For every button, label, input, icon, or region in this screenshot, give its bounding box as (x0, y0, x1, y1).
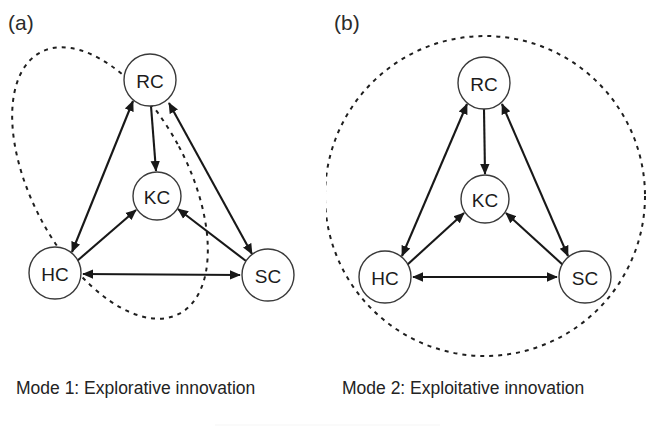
edge-hc-rc-bidirectional (72, 101, 133, 252)
edge-rc-to-kc (151, 106, 156, 171)
panel-a-diagram: RC KC HC SC (0, 0, 326, 370)
edge-sc-to-kc (506, 213, 563, 265)
panel-b-diagram: RC KC HC SC (326, 0, 652, 370)
node-rc[interactable]: RC (458, 57, 510, 109)
panel-a: (a) RC KC (0, 0, 326, 370)
grouping-ellipse-mode1 (0, 16, 248, 351)
edge-hc-sc-bidirectional (83, 274, 240, 275)
node-hc-label: HC (371, 268, 398, 289)
panel-b: (b) RC KC (326, 0, 652, 370)
node-sc-label: SC (255, 266, 281, 287)
node-kc-label: KC (472, 190, 498, 211)
node-kc[interactable]: KC (461, 175, 509, 223)
node-sc-label: SC (572, 268, 598, 289)
figure-canvas: (a) RC KC (0, 0, 652, 433)
node-rc[interactable]: RC (124, 54, 176, 106)
bottom-edge-artifact (215, 424, 440, 426)
node-hc-label: HC (41, 264, 68, 285)
node-sc[interactable]: SC (559, 251, 611, 303)
edge-sc-to-kc (178, 209, 246, 261)
node-sc[interactable]: SC (242, 249, 294, 301)
node-hc[interactable]: HC (359, 251, 411, 303)
edge-rc-to-kc (484, 109, 485, 174)
edge-rc-sc-bidirectional (169, 103, 252, 254)
edge-hc-to-kc (407, 213, 464, 265)
node-kc-label: KC (144, 187, 170, 208)
edge-hc-rc-bidirectional (402, 104, 467, 256)
node-rc-label: RC (470, 74, 497, 95)
node-rc-label: RC (136, 71, 163, 92)
caption-mode-2: Mode 2: Exploitative innovation (342, 378, 584, 399)
caption-mode-1: Mode 1: Explorative innovation (16, 378, 255, 399)
node-kc[interactable]: KC (133, 172, 181, 220)
edge-rc-sc-bidirectional (502, 104, 568, 256)
node-hc[interactable]: HC (29, 247, 81, 299)
